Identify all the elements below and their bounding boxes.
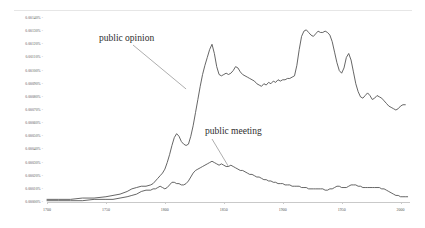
x-axis-tick-mark: [401, 202, 402, 204]
x-axis-tick-mark: [106, 202, 107, 204]
top-divider-rule: [14, 10, 412, 11]
x-axis-tick-mark: [283, 202, 284, 204]
y-axis-tick-label: 0.00130% -: [25, 29, 43, 33]
x-axis-tick-label: 1900: [279, 207, 287, 212]
y-axis-tick-label: 0.00090% -: [25, 82, 43, 86]
y-axis-tick-label: 0.00010% -: [25, 187, 43, 191]
x-axis-tick-mark: [342, 202, 343, 204]
series-lines: [47, 18, 410, 202]
x-axis-tick-label: 1750: [102, 207, 110, 212]
series-line-public-meeting: [47, 161, 408, 200]
y-axis-tick-label: 0.00120% -: [25, 42, 43, 46]
y-axis-tick-label: 0.00070% -: [25, 108, 43, 112]
y-axis-tick-label: 0.00080% -: [25, 95, 43, 99]
x-axis: 1700175018001850190019502000: [47, 204, 410, 222]
y-axis-tick-label: 0.00040% -: [25, 147, 43, 151]
y-axis-tick-label: 0.00100% -: [25, 69, 43, 73]
x-axis-tick-label: 1950: [338, 207, 346, 212]
annotation-public-opinion: public opinion: [99, 33, 154, 43]
y-axis: 0.00140% -0.00130% -0.00120% -0.00110% -…: [0, 18, 45, 202]
y-axis-tick-label: 0.00030% -: [25, 161, 43, 165]
y-axis-tick-label: 0.00060% -: [25, 121, 43, 125]
x-axis-tick-label: 2000: [397, 207, 405, 212]
x-axis-tick-label: 1800: [161, 207, 169, 212]
x-axis-tick-mark: [47, 202, 48, 204]
x-axis-tick-mark: [165, 202, 166, 204]
y-axis-tick-label: 0.00140% -: [25, 16, 43, 20]
ngram-chart: 0.00140% -0.00130% -0.00120% -0.00110% -…: [0, 0, 425, 228]
x-axis-tick-mark: [224, 202, 225, 204]
x-axis-line: [47, 202, 410, 203]
series-line-public-opinion: [47, 30, 405, 200]
annotation-public-meeting: public meeting: [205, 126, 262, 136]
x-axis-tick-label: 1850: [220, 207, 228, 212]
y-axis-tick-label: 0.00000% -: [25, 200, 43, 204]
x-axis-tick-label: 1700: [43, 207, 51, 212]
y-axis-tick-label: 0.00020% -: [25, 174, 43, 178]
plot-area: [47, 18, 410, 202]
y-axis-tick-label: 0.00050% -: [25, 134, 43, 138]
y-axis-tick-label: 0.00110% -: [25, 55, 43, 59]
